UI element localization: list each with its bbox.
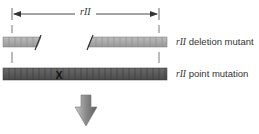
region-label: rII (80, 6, 91, 17)
deletion-mutant-label: rII deletion mutant (176, 36, 254, 47)
gene-name: rII (176, 69, 186, 79)
gene-name: rII (176, 37, 186, 47)
down-arrow-icon (75, 95, 97, 126)
deletion-bar (3, 35, 167, 50)
row-description: deletion mutant (189, 36, 254, 47)
row-description: point mutation (189, 68, 249, 79)
point-mutation-label: rII point mutation (176, 68, 248, 79)
point-mutation-mark: X (56, 70, 63, 81)
rii-diagram: X (0, 0, 259, 134)
point-mutation-bar: X (3, 68, 167, 81)
